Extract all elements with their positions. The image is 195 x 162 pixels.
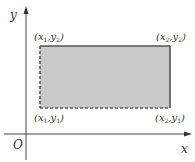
y-axis-label: y [9,8,17,22]
corner-label-bottom-right: (x2,y1) [155,112,185,124]
coordinate-diagram: y x O (x1,y2) (x2,y2) (x1,y1) (x2,y1) [0,0,195,162]
shaded-rectangle [40,46,170,108]
origin-label: O [13,138,23,152]
corner-label-bottom-left: (x1,y1) [34,112,64,124]
x-axis-arrow-icon [184,132,192,137]
x-axis-label: x [181,142,188,156]
corner-label-top-right: (x2,y2) [156,31,186,43]
y-axis-arrow-icon [24,6,29,14]
corner-label-top-left: (x1,y2) [34,31,64,43]
